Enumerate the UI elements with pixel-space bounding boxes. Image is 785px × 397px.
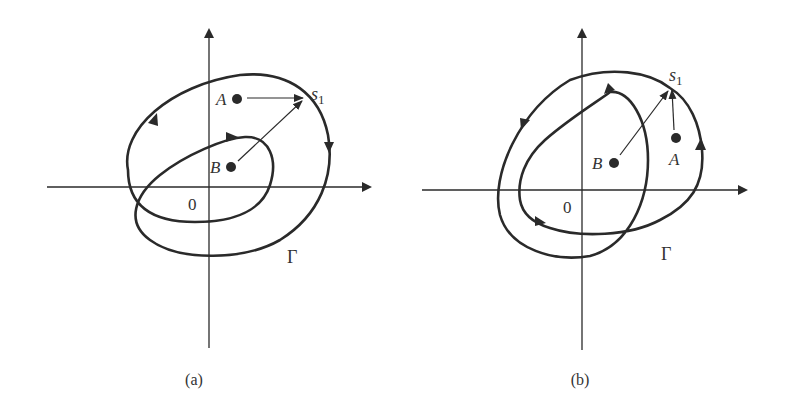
point-b-label: B	[592, 154, 603, 173]
caption-a: (a)	[185, 371, 203, 389]
direction-arrow-icon	[695, 138, 706, 150]
point-a-label: A	[215, 90, 227, 109]
point-b-dot	[609, 158, 619, 168]
point-b-label: B	[210, 158, 221, 177]
caption-b: (b)	[571, 371, 590, 389]
point-a-dot	[671, 133, 681, 143]
direction-arrow-icon	[324, 142, 334, 153]
vector-a-to-s1	[672, 90, 674, 130]
origin-label: 0	[188, 195, 197, 214]
point-a-label: A	[668, 150, 680, 169]
direction-arrow-icon	[520, 118, 530, 130]
gamma-label: Γ	[661, 244, 671, 264]
panel-b: A B s1 0 Γ (b)	[422, 30, 746, 389]
origin-label: 0	[563, 198, 572, 217]
gamma-label: Γ	[287, 247, 297, 267]
direction-arrow-icon	[535, 216, 546, 226]
s1-label: s1	[311, 84, 325, 107]
panel-a: A B s1 0 Γ (a)	[47, 30, 370, 389]
point-b-dot	[226, 162, 236, 172]
direction-arrow-icon	[226, 132, 238, 142]
figure-canvas: A B s1 0 Γ (a) A B s1 0 Γ (b)	[0, 0, 785, 397]
point-a-dot	[232, 94, 242, 104]
s1-label: s1	[669, 65, 683, 88]
vector-b-to-s1	[620, 91, 668, 155]
